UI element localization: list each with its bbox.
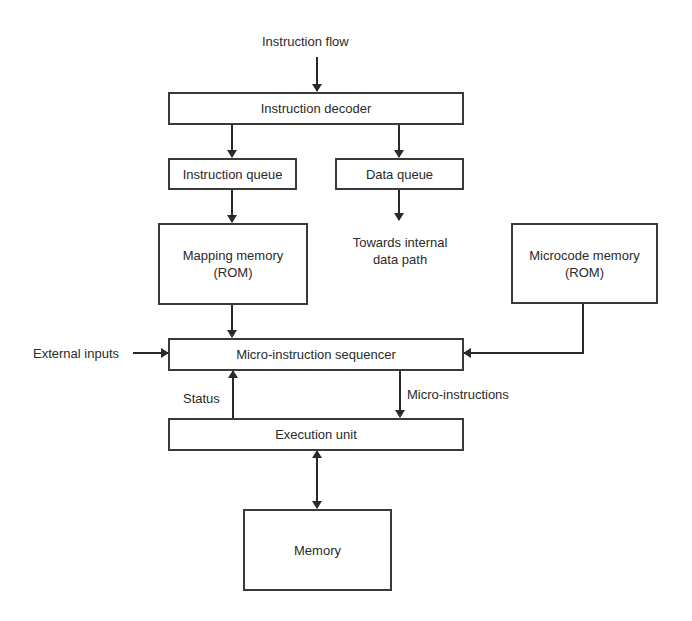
towards-internal-line2: data path — [344, 251, 456, 268]
memory-label: Memory — [294, 542, 341, 559]
execution-unit-box: Execution unit — [168, 418, 464, 451]
sequencer-label: Micro-instruction sequencer — [236, 346, 396, 363]
microcode-memory-box: Microcode memory (ROM) — [511, 223, 658, 304]
status-label: Status — [183, 390, 220, 407]
external-inputs-label: External inputs — [33, 345, 119, 362]
mapping-memory-label-line2: (ROM) — [214, 264, 253, 281]
microcode-memory-label-line2: (ROM) — [565, 264, 604, 281]
memory-box: Memory — [243, 509, 392, 591]
data-queue-box: Data queue — [335, 158, 464, 190]
arrow-microcode-to-sequencer — [464, 303, 583, 353]
instruction-queue-box: Instruction queue — [168, 158, 297, 190]
execution-unit-label: Execution unit — [275, 426, 357, 443]
towards-internal-data-path-label: Towards internal data path — [344, 234, 456, 268]
instruction-decoder-box: Instruction decoder — [168, 92, 464, 125]
instruction-queue-label: Instruction queue — [183, 166, 283, 183]
instruction-decoder-label: Instruction decoder — [261, 100, 372, 117]
mapping-memory-label-line1: Mapping memory — [183, 247, 283, 264]
micro-instructions-label: Micro-instructions — [407, 386, 509, 403]
data-queue-label: Data queue — [366, 166, 433, 183]
towards-internal-line1: Towards internal — [344, 234, 456, 251]
instruction-flow-label: Instruction flow — [262, 33, 349, 50]
mapping-memory-box: Mapping memory (ROM) — [158, 223, 308, 305]
microcode-memory-label-line1: Microcode memory — [529, 247, 640, 264]
micro-instruction-sequencer-box: Micro-instruction sequencer — [168, 338, 464, 371]
